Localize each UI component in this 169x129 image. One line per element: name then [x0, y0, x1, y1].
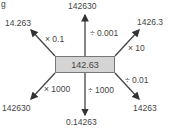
operation-down-right: ÷ 0.01: [125, 76, 149, 85]
operation-up-right: × 10: [128, 44, 145, 53]
result-down: 0.14263: [66, 118, 97, 127]
result-down-right: 14263: [133, 104, 157, 113]
result-up: 142630: [68, 2, 96, 11]
center-value-box: 142.63: [55, 56, 115, 73]
result-up-right: 1426.3: [137, 18, 163, 27]
figure-label: g: [1, 0, 6, 9]
operation-up: ÷ 0.001: [90, 29, 118, 38]
operation-down-left: × 1000: [44, 85, 70, 94]
operation-up-left: × 0.1: [45, 35, 64, 44]
result-up-left: 14.263: [5, 19, 31, 28]
result-down-left: 142630: [2, 104, 30, 113]
operation-down: ÷ 1000: [88, 86, 114, 95]
